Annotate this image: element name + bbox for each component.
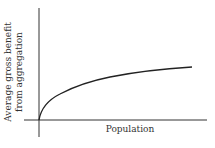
y-axis-label-line1: Average gross benefit bbox=[3, 17, 14, 127]
x-axis-label: Population bbox=[100, 124, 160, 134]
diagram: Average gross benefit from aggregation P… bbox=[0, 0, 215, 148]
y-axis-label-line2: from aggregation bbox=[14, 17, 25, 127]
benefit-curve bbox=[39, 67, 192, 120]
y-axis-label: Average gross benefit from aggregation bbox=[3, 17, 31, 127]
